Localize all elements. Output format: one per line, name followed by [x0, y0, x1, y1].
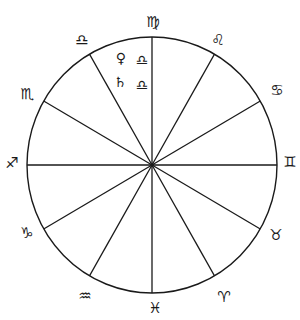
libra-icon: ♎	[136, 52, 149, 68]
wheel-center	[150, 163, 154, 167]
libra-icon: ♎	[75, 31, 88, 49]
cancer-icon: ♋	[270, 81, 283, 99]
aquarius-icon: ♒	[78, 287, 91, 305]
aries-icon: ♈	[217, 288, 230, 306]
taurus-icon: ♉	[269, 226, 282, 244]
pisces-icon: ♓	[148, 299, 161, 317]
virgo-icon: ♍	[146, 13, 159, 31]
capricorn-icon: ♑	[20, 224, 33, 242]
venus-icon: ♀	[116, 50, 126, 66]
saturn-icon: ♄	[114, 74, 127, 90]
libra-icon: ♎	[136, 77, 149, 93]
sagittarius-icon: ♐	[5, 154, 18, 172]
zodiac-wheel-diagram: ♍ ♌ ♋ ♊ ♉ ♈ ♓ ♒ ♑ ♐ ♏ ♎ ♀ ♎ ♄ ♎	[0, 0, 300, 320]
scorpio-icon: ♏	[20, 85, 34, 103]
leo-icon: ♌	[211, 31, 224, 49]
gemini-icon: ♊	[283, 153, 296, 171]
